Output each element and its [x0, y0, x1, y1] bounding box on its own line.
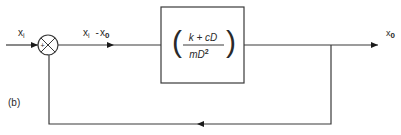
denominator-exp: 2	[205, 48, 209, 55]
block-diagram: xi + - xi-x0 ( ) k + cD mD2 x0 (b)	[0, 0, 401, 135]
error-label-operator: -	[96, 27, 99, 38]
input-arrow-icon	[31, 42, 38, 48]
output-arrow-icon	[371, 42, 378, 48]
input-label-sub: i	[23, 32, 25, 39]
output-label: x0	[386, 28, 396, 40]
transfer-numerator: k + cD	[189, 32, 218, 43]
feedback-arrow-icon	[197, 121, 204, 127]
error-signal-label: xi-x0	[83, 27, 110, 40]
panel-label: (b)	[8, 97, 20, 108]
left-paren: (	[172, 25, 182, 58]
denominator-main: mD	[189, 49, 205, 60]
error-signal-arrow-icon	[107, 42, 114, 48]
input-label: xi	[18, 27, 25, 39]
plus-sign: +	[41, 42, 45, 49]
transfer-denominator: mD2	[189, 48, 209, 60]
summing-junction: + -	[38, 35, 58, 58]
error-label-b-sub: 0	[105, 31, 110, 40]
error-label-a-sub: i	[88, 32, 90, 39]
output-label-sub: 0	[391, 31, 396, 40]
right-paren: )	[226, 25, 236, 58]
